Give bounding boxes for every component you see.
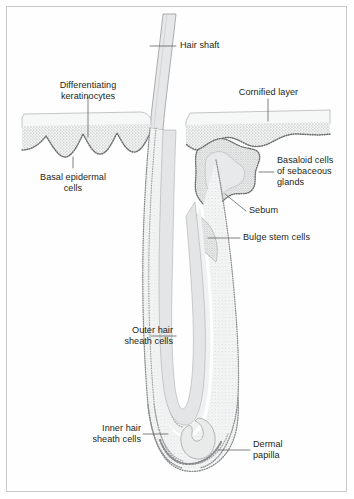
label-basaloid-cells-of-sebaceous-glands: Basaloid cells of sebaceous glands [277,155,353,189]
label-cornified-layer: Cornified layer [218,87,319,98]
label-differentiating-keratinocytes: Differentiating keratinocytes [28,80,148,102]
label-basal-epidermal-cells: Basal epidermal cells [13,172,133,194]
hair-follicle-illustration [0,0,354,499]
label-outer-hair-sheath-cells: Outer hair sheath cells [76,325,173,347]
leader-sebum [225,194,246,211]
hair-follicle-figure: Hair shaft Differentiating keratinocytes… [0,0,354,499]
label-bulge-stem-cells: Bulge stem cells [243,232,348,243]
label-hair-shaft: Hair shaft [180,40,270,51]
label-inner-hair-sheath-cells: Inner hair sheath cells [62,423,141,445]
hair-shaft-shape [150,14,176,130]
label-dermal-papilla: Dermal papilla [253,439,313,461]
label-sebum: Sebum [249,205,309,216]
